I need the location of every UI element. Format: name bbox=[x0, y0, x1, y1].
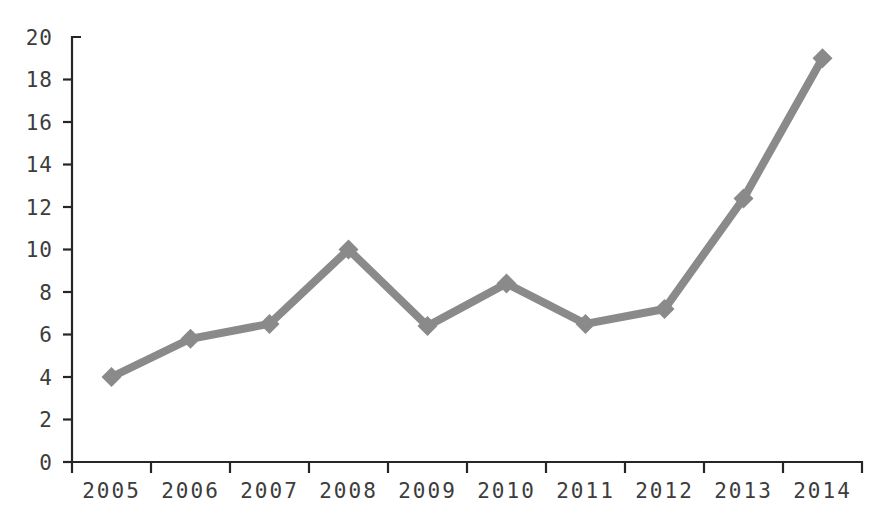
y-axis-tick-label: 4 bbox=[39, 366, 53, 390]
y-axis-tick-label: 6 bbox=[39, 323, 53, 347]
x-axis-tick-label: 2006 bbox=[161, 479, 220, 503]
y-axis-tick-label: 12 bbox=[26, 196, 53, 220]
y-axis-tick-label: 18 bbox=[26, 68, 53, 92]
x-axis-tick-label: 2009 bbox=[398, 479, 457, 503]
chart-background bbox=[0, 0, 886, 522]
x-axis-tick-label: 2007 bbox=[240, 479, 299, 503]
x-axis-tick-label: 2011 bbox=[556, 479, 615, 503]
x-axis-tick-label: 2012 bbox=[635, 479, 694, 503]
chart-canvas: 02468101214161820 2005200620072008200920… bbox=[0, 0, 886, 522]
x-axis-tick-label: 2010 bbox=[477, 479, 536, 503]
y-axis-tick-label: 20 bbox=[26, 26, 53, 50]
y-axis-tick-label: 8 bbox=[39, 281, 53, 305]
x-axis-tick-label: 2008 bbox=[319, 479, 378, 503]
x-axis-tick-label: 2013 bbox=[714, 479, 773, 503]
x-axis-tick-label: 2014 bbox=[793, 479, 852, 503]
x-axis-tick-label: 2005 bbox=[82, 479, 141, 503]
y-axis-tick-label: 0 bbox=[39, 451, 53, 475]
y-axis-tick-label: 10 bbox=[26, 238, 53, 262]
y-axis-tick-label: 2 bbox=[39, 408, 53, 432]
y-axis-tick-label: 16 bbox=[26, 111, 53, 135]
y-axis-tick-label: 14 bbox=[26, 153, 53, 177]
line-chart: 02468101214161820 2005200620072008200920… bbox=[0, 0, 886, 522]
